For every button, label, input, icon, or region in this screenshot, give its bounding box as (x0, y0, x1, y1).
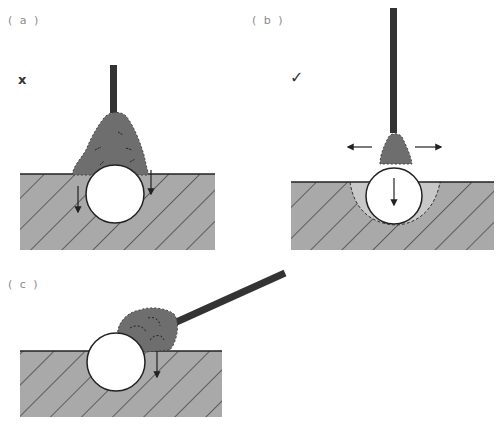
ball (87, 333, 145, 391)
panel-c (20, 273, 285, 417)
diagram-canvas (0, 0, 504, 428)
rod (172, 273, 285, 324)
panel-a (20, 65, 215, 250)
panel-b (291, 8, 494, 250)
ball (86, 165, 144, 223)
rod (390, 8, 397, 133)
rod (110, 65, 117, 113)
deposit (380, 134, 412, 164)
